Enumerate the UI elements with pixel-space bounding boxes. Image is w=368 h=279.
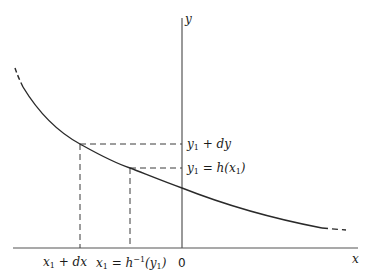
label-part: y (187, 137, 194, 151)
label-part: = h (108, 256, 133, 270)
diagram-canvas: y x 0 y1 + dy y1 = h(x1) x1 + dx x1 = h−… (0, 0, 368, 279)
label-superscript: −1 (133, 255, 145, 264)
label-part: ) (162, 256, 167, 270)
label-part: y (187, 161, 194, 175)
diagram-svg (0, 0, 368, 279)
label-part: x (43, 255, 50, 269)
label-x1-equals-h-inverse-y1: x1 = h−1(y1) (96, 256, 166, 271)
label-part: x (96, 256, 103, 270)
label-part: = h(x (199, 161, 236, 175)
label-y1-equals-h-x1: y1 = h(x1) (187, 162, 246, 176)
label-x1-plus-dx: x1 + dx (43, 256, 87, 270)
y-axis-label: y (185, 13, 192, 25)
label-part: ) (241, 161, 246, 175)
origin-label: 0 (178, 257, 186, 269)
label-part: + dy (199, 137, 231, 151)
curve-dashed-end (322, 228, 346, 230)
label-y1-plus-dy: y1 + dy (187, 138, 231, 152)
label-part: + dx (55, 255, 87, 269)
curve-dashed-start (15, 68, 23, 87)
x-axis-label: x (352, 253, 359, 265)
curve-h-of-x (23, 87, 322, 228)
label-part: (y (145, 256, 156, 270)
